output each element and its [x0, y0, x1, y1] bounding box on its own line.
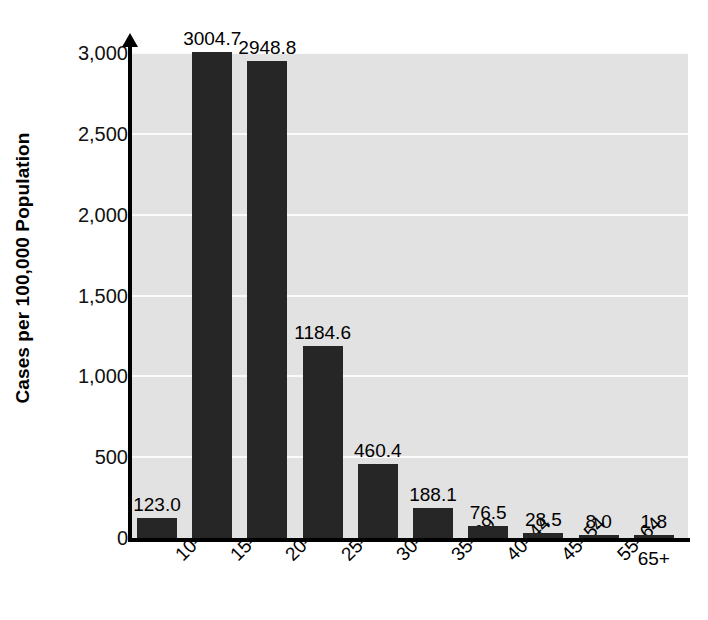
- y-axis-tick-label: 1,000: [52, 365, 128, 388]
- y-axis-tick-label: 2,000: [52, 203, 128, 226]
- bar-value-label: 2948.8: [238, 37, 296, 59]
- bar-value-label: 8.0: [585, 511, 611, 533]
- bar[interactable]: [303, 346, 343, 538]
- x-axis-tick-label: 65+: [638, 548, 670, 570]
- bar[interactable]: [468, 526, 508, 538]
- y-axis-line: [128, 44, 132, 540]
- y-axis-tick-label: 0: [52, 527, 128, 550]
- bar-value-label: 28.5: [525, 509, 562, 531]
- x-axis-tick-label: 10–14: [171, 550, 187, 566]
- y-axis-tick-label: 500: [52, 446, 128, 469]
- x-axis-tick-label: 15–19: [226, 550, 242, 566]
- y-axis-title: Cases per 100,000 Population: [0, 0, 46, 620]
- bar-value-label: 3004.7: [183, 28, 241, 50]
- bar-chart-figure: Cases per 100,000 Population 05001,0001,…: [0, 0, 708, 620]
- bar[interactable]: [247, 61, 287, 538]
- x-axis-tick-label: 40–44: [502, 550, 518, 566]
- bar-value-label: 1.8: [641, 511, 667, 533]
- x-axis-tick-label: 55–64: [613, 550, 629, 566]
- y-axis-title-text: Cases per 100,000 Population: [12, 132, 34, 403]
- bar[interactable]: [413, 508, 453, 538]
- y-axis-tick-labels: 05001,0001,5002,0002,5003,000: [46, 0, 128, 620]
- x-axis-tick-label: 20–24: [281, 550, 297, 566]
- y-axis-tick-label: 3,000: [52, 42, 128, 65]
- x-axis-tick-label: 45–54: [557, 550, 573, 566]
- bar-value-label: 76.5: [470, 502, 507, 524]
- bar-value-label: 123.0: [133, 494, 181, 516]
- bar[interactable]: [579, 535, 619, 538]
- bar[interactable]: [137, 518, 177, 538]
- x-axis-tick-label: 25–29: [337, 550, 353, 566]
- bar-value-label: 1184.6: [294, 322, 351, 344]
- bar-value-label: 460.4: [354, 440, 402, 462]
- bar[interactable]: [634, 535, 674, 538]
- y-axis-arrow-icon: [122, 33, 138, 47]
- y-axis-tick-label: 1,500: [52, 284, 128, 307]
- y-axis-tick-label: 2,500: [52, 122, 128, 145]
- bar-value-label: 188.1: [409, 484, 457, 506]
- bar[interactable]: [358, 464, 398, 538]
- x-axis-tick-label: 35–39: [447, 550, 463, 566]
- bar[interactable]: [523, 533, 563, 538]
- x-axis-tick-label: 30–34: [392, 550, 408, 566]
- bar[interactable]: [192, 52, 232, 538]
